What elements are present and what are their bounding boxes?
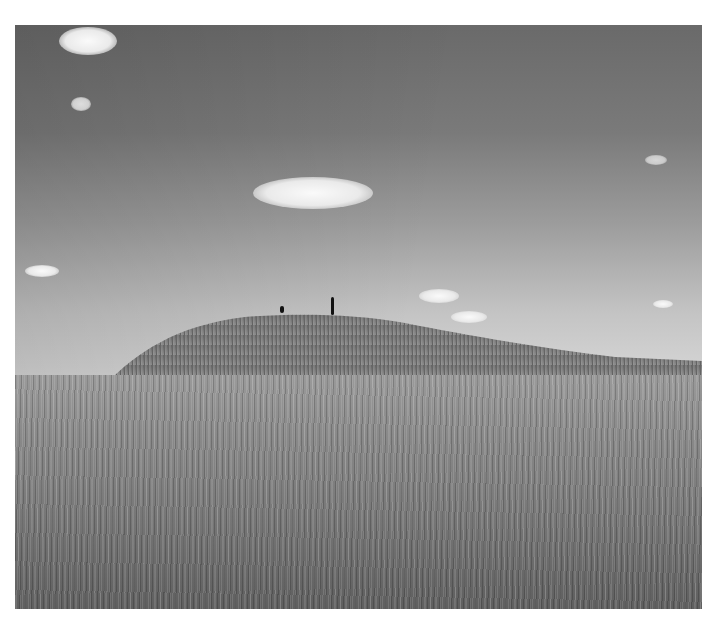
walking-person-figure <box>331 297 334 315</box>
landscape-photo <box>15 25 702 609</box>
child-figure <box>280 306 284 313</box>
prairie-grass-foreground <box>15 375 702 609</box>
